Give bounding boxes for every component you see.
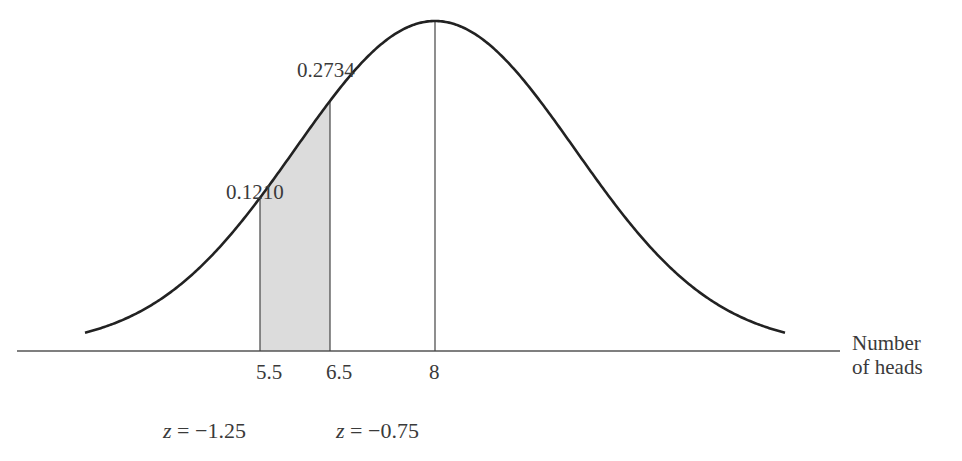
z-variable: z <box>163 418 172 443</box>
x-axis-title: Number of heads <box>852 331 923 379</box>
tick-label-6.5: 6.5 <box>326 362 352 383</box>
annotation-area-0.1210: 0.1210 <box>226 182 284 203</box>
normal-curve-diagram <box>0 0 962 461</box>
z-variable: z <box>336 418 345 443</box>
equals-sign: = <box>345 418 368 443</box>
x-axis-title-line1: Number <box>852 331 923 355</box>
annotation-area-0.2734: 0.2734 <box>297 60 355 81</box>
equals-sign: = <box>172 418 195 443</box>
z-score-label-2: z = −0.75 <box>336 420 419 442</box>
x-axis-title-line2: of heads <box>852 355 923 379</box>
z-value: −1.25 <box>195 418 246 443</box>
tick-label-5.5: 5.5 <box>256 362 282 383</box>
shaded-area-5.5-to-6.5 <box>260 101 330 351</box>
z-value: −0.75 <box>368 418 419 443</box>
tick-label-8: 8 <box>429 362 440 383</box>
z-score-label-1: z = −1.25 <box>163 420 246 442</box>
